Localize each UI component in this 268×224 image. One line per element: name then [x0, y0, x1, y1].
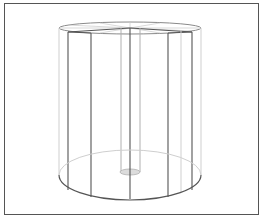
cylinder-front-edges [68, 28, 192, 199]
cylinder-wireframe-diagram [0, 0, 268, 224]
